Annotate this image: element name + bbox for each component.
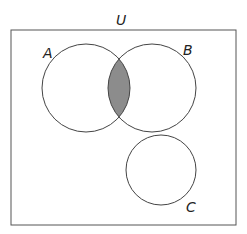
universe-label: U <box>116 12 126 28</box>
set-c-label: C <box>186 199 196 215</box>
set-b-label: B <box>183 42 193 58</box>
venn-diagram: U A B C <box>0 0 247 234</box>
set-c-circle <box>126 135 196 205</box>
set-a-label: A <box>42 45 53 61</box>
